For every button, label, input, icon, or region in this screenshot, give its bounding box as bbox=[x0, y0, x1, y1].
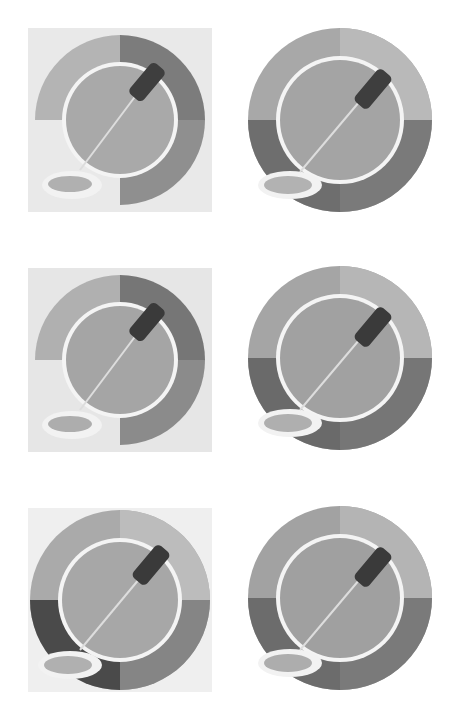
eyedropper-icon-2 bbox=[240, 20, 440, 220]
eyedropper-icon-1 bbox=[20, 20, 220, 220]
eyedropper-icon-6 bbox=[240, 498, 440, 698]
eyedropper-icon-3 bbox=[20, 260, 220, 460]
eyedropper-icon-4 bbox=[240, 258, 440, 458]
eyedropper-icon-5 bbox=[20, 500, 220, 700]
